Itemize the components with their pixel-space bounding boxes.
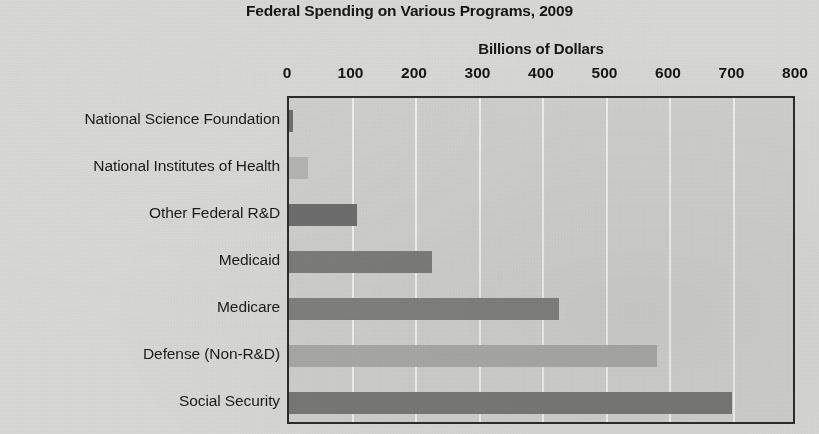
x-tick-label: 100 [321, 64, 381, 82]
bar [289, 345, 657, 367]
category-labels: National Science FoundationNational Inst… [0, 96, 280, 424]
x-tick-label: 800 [765, 64, 819, 82]
x-tick-label: 400 [511, 64, 571, 82]
x-tick-label: 300 [448, 64, 508, 82]
category-label: National Science Foundation [0, 110, 280, 128]
x-axis-tick-labels: 0100200300400500600700800 [0, 64, 819, 86]
bar-series [289, 98, 793, 422]
x-tick-label: 500 [575, 64, 635, 82]
category-label: Defense (Non-R&D) [0, 345, 280, 363]
plot-area [287, 96, 795, 424]
x-tick-label: 200 [384, 64, 444, 82]
bar [289, 204, 357, 226]
category-label: Medicare [0, 298, 280, 316]
category-label: Other Federal R&D [0, 204, 280, 222]
category-label: National Institutes of Health [0, 157, 280, 175]
bar [289, 392, 732, 414]
category-label: Medicaid [0, 251, 280, 269]
bar [289, 110, 293, 132]
bar [289, 157, 308, 179]
x-tick-label: 700 [702, 64, 762, 82]
chart-title: Federal Spending on Various Programs, 20… [0, 2, 819, 20]
bar [289, 298, 559, 320]
x-axis-title: Billions of Dollars [287, 40, 795, 57]
x-tick-label: 600 [638, 64, 698, 82]
bar [289, 251, 432, 273]
category-label: Social Security [0, 392, 280, 410]
x-tick-label: 0 [257, 64, 317, 82]
